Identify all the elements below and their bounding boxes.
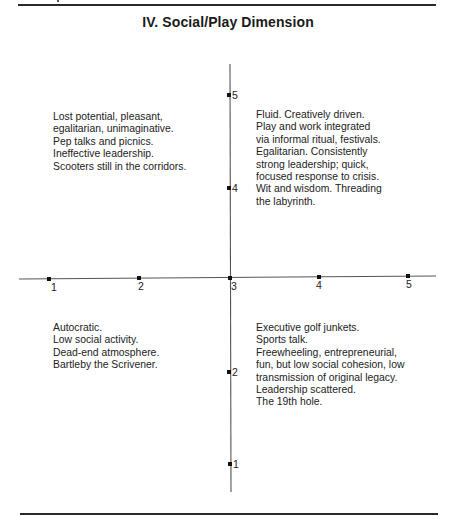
quadrant-line: Wit and wisdom. Threading bbox=[256, 183, 382, 195]
quadrant-bottom-right-text: Executive golf junkets. Sports talk. Fre… bbox=[256, 322, 404, 409]
quadrant-line: transmission of original legacy. bbox=[256, 372, 404, 384]
x-tick-label-2: 2 bbox=[138, 280, 144, 292]
y-tick-1 bbox=[228, 462, 232, 466]
quadrant-line: Fluid. Creatively driven. bbox=[256, 109, 382, 121]
quadrant-line: Lost potential, pleasant, bbox=[53, 111, 186, 123]
quadrant-line: Freewheeling, entrepreneurial, bbox=[256, 347, 404, 359]
quadrant-line: Bartleby the Scrivener. bbox=[53, 359, 159, 371]
quadrant-line: Play and work integrated bbox=[256, 121, 382, 133]
quadrant-line: Leadership scattered. bbox=[256, 384, 404, 396]
y-tick-5 bbox=[227, 93, 231, 97]
x-tick-label-5: 5 bbox=[406, 278, 412, 290]
quadrant-line: egalitarian, unimaginative. bbox=[53, 123, 186, 135]
quadrant-line: Ineffective leadership. bbox=[53, 148, 186, 160]
quadrant-axes bbox=[0, 0, 456, 516]
quadrant-line: Low social activity. bbox=[53, 334, 159, 346]
y-tick-label-4: 4 bbox=[232, 182, 238, 194]
x-axis-line bbox=[19, 276, 436, 279]
quadrant-line: Egalitarian. Consistently bbox=[256, 146, 382, 158]
quadrant-line: The 19th hole. bbox=[256, 396, 404, 408]
quadrant-bottom-left-text: Autocratic. Low social activity. Dead-en… bbox=[53, 322, 159, 372]
y-tick-label-2: 2 bbox=[232, 366, 238, 378]
x-tick-label-3: 3 bbox=[231, 280, 237, 292]
quadrant-line: fun, but low social cohesion, low bbox=[256, 359, 404, 371]
y-tick-label-5: 5 bbox=[232, 89, 238, 101]
quadrant-line: Dead-end atmosphere. bbox=[53, 347, 159, 359]
y-tick-label-1: 1 bbox=[233, 458, 239, 470]
y-tick-2 bbox=[227, 370, 231, 374]
quadrant-line: Autocratic. bbox=[53, 322, 159, 334]
quadrant-line: strong leadership; quick, bbox=[256, 159, 382, 171]
quadrant-line: Scooters still in the corridors. bbox=[53, 161, 186, 173]
x-tick-label-4: 4 bbox=[316, 279, 322, 291]
quadrant-line: via informal ritual, festivals. bbox=[256, 134, 382, 146]
quadrant-line: Pep talks and picnics. bbox=[53, 136, 186, 148]
quadrant-top-right-text: Fluid. Creatively driven. Play and work … bbox=[256, 109, 382, 208]
bottom-rule bbox=[20, 513, 438, 515]
x-tick-label-1: 1 bbox=[51, 281, 57, 293]
quadrant-line: focused response to crisis. bbox=[256, 171, 382, 183]
quadrant-top-left-text: Lost potential, pleasant, egalitarian, u… bbox=[53, 111, 186, 173]
y-tick-4 bbox=[227, 186, 231, 190]
quadrant-line: Sports talk. bbox=[256, 334, 404, 346]
quadrant-line: the labyrinth. bbox=[256, 196, 382, 208]
quadrant-line: Executive golf junkets. bbox=[256, 322, 404, 334]
